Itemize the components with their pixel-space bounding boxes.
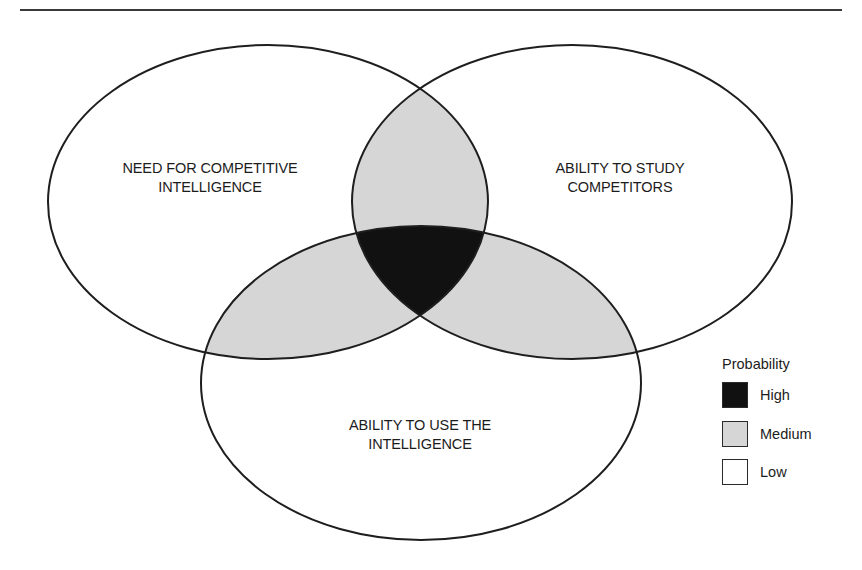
label-need-line2: INTELLIGENCE — [80, 178, 340, 197]
legend-label-low: Low — [760, 464, 787, 480]
legend-item-medium: Medium — [722, 421, 812, 447]
label-study: ABILITY TO STUDY COMPETITORS — [520, 159, 720, 197]
label-use-line1: ABILITY TO USE THE — [310, 416, 530, 435]
label-use-line2: INTELLIGENCE — [310, 435, 530, 454]
label-need: NEED FOR COMPETITIVE INTELLIGENCE — [80, 159, 340, 197]
legend-label-medium: Medium — [760, 426, 812, 442]
medium-swatch-icon — [722, 421, 748, 447]
low-swatch-icon — [722, 459, 748, 485]
legend-item-low: Low — [722, 459, 787, 485]
label-study-line1: ABILITY TO STUDY — [520, 159, 720, 178]
legend-item-high: High — [722, 382, 790, 408]
legend-title: Probability — [722, 356, 790, 372]
label-use: ABILITY TO USE THE INTELLIGENCE — [310, 416, 530, 454]
label-study-line2: COMPETITORS — [520, 178, 720, 197]
label-need-line1: NEED FOR COMPETITIVE — [80, 159, 340, 178]
medium-regions — [201, 45, 792, 540]
legend-label-high: High — [760, 387, 790, 403]
high-swatch-icon — [722, 382, 748, 408]
